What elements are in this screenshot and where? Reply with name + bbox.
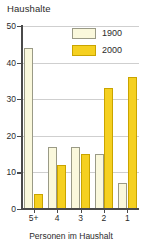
legend-item-1900[interactable]: 1900 [72, 27, 138, 42]
x-tick-label: 4 [45, 214, 69, 223]
y-tick-label: 20 [0, 132, 16, 141]
bar-1-2000[interactable] [128, 77, 137, 209]
bar-5plus-2000[interactable] [34, 194, 43, 209]
bar-2-1900[interactable] [95, 154, 104, 209]
bar-1-1900[interactable] [118, 183, 127, 209]
x-tick-label: 5+ [22, 214, 46, 223]
y-tick-mark [17, 172, 22, 173]
y-tick-label: 0 [0, 205, 16, 214]
gridline [22, 99, 139, 100]
bar-5plus-1900[interactable] [24, 48, 33, 209]
y-tick-label: 50 [0, 22, 16, 31]
y-tick-label: 30 [0, 95, 16, 104]
bar-4-2000[interactable] [57, 165, 66, 209]
y-tick-mark [17, 63, 22, 64]
y-axis-tick-labels: 01020304050 [0, 0, 16, 247]
x-tick-label: 1 [115, 214, 139, 223]
y-tick-label: 10 [0, 168, 16, 177]
x-tick-label: 3 [69, 214, 93, 223]
bar-4-1900[interactable] [48, 147, 57, 209]
gridline [22, 63, 139, 64]
household-size-bar-chart: Haushalte 01020304050 5+4321 Personen im… [0, 0, 142, 247]
y-tick-mark [17, 99, 22, 100]
gridline [22, 136, 139, 137]
legend-label-1900: 1900 [102, 28, 122, 39]
y-tick-label: 40 [0, 59, 16, 68]
bar-2-2000[interactable] [104, 88, 113, 209]
legend-swatch-2000 [72, 45, 96, 56]
y-tick-mark [17, 136, 22, 137]
y-tick-mark [17, 209, 22, 210]
bar-3-2000[interactable] [81, 154, 90, 209]
bar-3-1900[interactable] [71, 147, 80, 209]
legend-swatch-1900 [72, 28, 96, 39]
chart-legend: 1900 2000 [72, 27, 138, 61]
y-axis-line [21, 25, 23, 210]
x-axis-title: Personen im Haushalt [0, 231, 142, 241]
x-tick-label: 2 [92, 214, 116, 223]
y-tick-mark [17, 26, 22, 27]
legend-label-2000: 2000 [102, 45, 122, 56]
legend-item-2000[interactable]: 2000 [72, 44, 138, 59]
